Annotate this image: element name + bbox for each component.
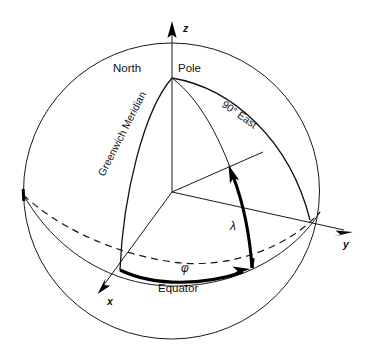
ninety-east-label: 90° East bbox=[220, 98, 260, 131]
x-axis-label: x bbox=[106, 295, 114, 307]
z-axis-label: z bbox=[182, 22, 189, 34]
greenwich-meridian-label: Greenwich Meridian bbox=[95, 89, 148, 178]
equator-label: Equator bbox=[158, 282, 198, 294]
phi-label: φ bbox=[181, 261, 189, 275]
x-axis-arrowhead bbox=[98, 279, 111, 295]
north-pole-label-left: North bbox=[113, 62, 141, 74]
x-axis-line bbox=[103, 192, 172, 286]
sphere-diagram-svg: North Pole Greenwich Meridian 90° East E… bbox=[0, 0, 372, 348]
point-meridian-upper-arc bbox=[172, 78, 242, 205]
y-axis-arrowhead bbox=[334, 231, 353, 237]
radius-vector-line bbox=[172, 152, 263, 192]
lambda-label: λ bbox=[229, 219, 236, 233]
equator-front-arc bbox=[24, 195, 321, 286]
equator-back-arc-dashed bbox=[24, 195, 321, 264]
y-axis-label: y bbox=[342, 238, 350, 250]
point-p-connector bbox=[252, 258, 253, 268]
north-pole-label-right: Pole bbox=[178, 62, 201, 74]
figure-canvas: North Pole Greenwich Meridian 90° East E… bbox=[0, 0, 372, 348]
